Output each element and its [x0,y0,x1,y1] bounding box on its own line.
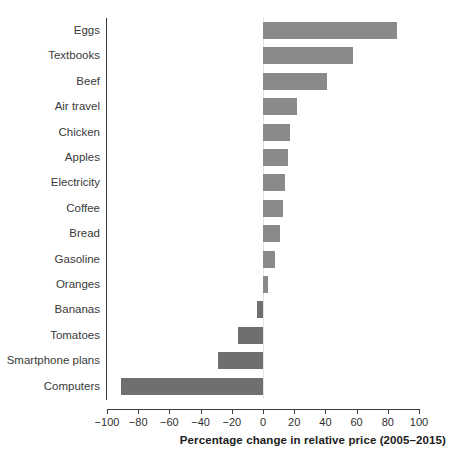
x-tick-label: 100 [399,416,439,428]
x-tick [201,409,202,414]
x-tick [138,409,139,414]
y-axis-label-beef: Beef [0,69,100,94]
y-axis-label-computers: Computers [0,374,100,399]
y-axis-label-bread: Bread [0,221,100,246]
bar-smartphone-plans [218,352,263,369]
bar-row [107,297,419,322]
x-tick [388,409,389,414]
y-axis-label-bananas: Bananas [0,297,100,322]
x-tick [325,409,326,414]
x-tick [294,409,295,414]
x-tick [107,409,108,414]
bar-row [107,323,419,348]
bar-bananas [257,301,263,318]
bar-row [107,348,419,373]
bar-row [107,69,419,94]
bar-row [107,94,419,119]
y-axis-label-gasoline: Gasoline [0,247,100,272]
bar-row [107,170,419,195]
y-axis-label-oranges: Oranges [0,272,100,297]
bar-row [107,247,419,272]
bar-bread [263,225,280,242]
y-axis-label-tomatoes: Tomatoes [0,323,100,348]
y-axis-label-air-travel: Air travel [0,94,100,119]
bar-eggs [263,22,397,39]
bar-computers [121,378,263,395]
bar-row [107,18,419,43]
bar-row [107,221,419,246]
x-tick [263,409,264,414]
bar-row [107,196,419,221]
bar-gasoline [263,251,275,268]
bar-electricity [263,174,285,191]
bar-textbooks [263,47,353,64]
y-axis-category-labels: EggsTextbooksBeefAir travelChickenApples… [0,18,100,399]
x-tick [232,409,233,414]
y-axis-label-coffee: Coffee [0,196,100,221]
plot-area [107,18,419,399]
bar-row [107,145,419,170]
y-axis-label-smartphone-plans: Smartphone plans [0,348,100,373]
bar-apples [263,149,288,166]
bar-row [107,43,419,68]
bar-chart: EggsTextbooksBeefAir travelChickenApples… [0,0,453,464]
y-axis-label-electricity: Electricity [0,170,100,195]
y-axis-label-textbooks: Textbooks [0,43,100,68]
bar-beef [263,73,327,90]
x-tick [357,409,358,414]
y-axis-label-apples: Apples [0,145,100,170]
bar-oranges [263,276,268,293]
bar-tomatoes [238,327,263,344]
x-tick [419,409,420,414]
bar-coffee [263,200,283,217]
bar-row [107,272,419,297]
bar-row [107,120,419,145]
y-axis-label-chicken: Chicken [0,120,100,145]
bar-chicken [263,124,290,141]
y-axis-label-eggs: Eggs [0,18,100,43]
x-axis-title: Percentage change in relative price (200… [0,434,446,446]
bar-air-travel [263,98,297,115]
bar-row [107,374,419,399]
x-tick [169,409,170,414]
